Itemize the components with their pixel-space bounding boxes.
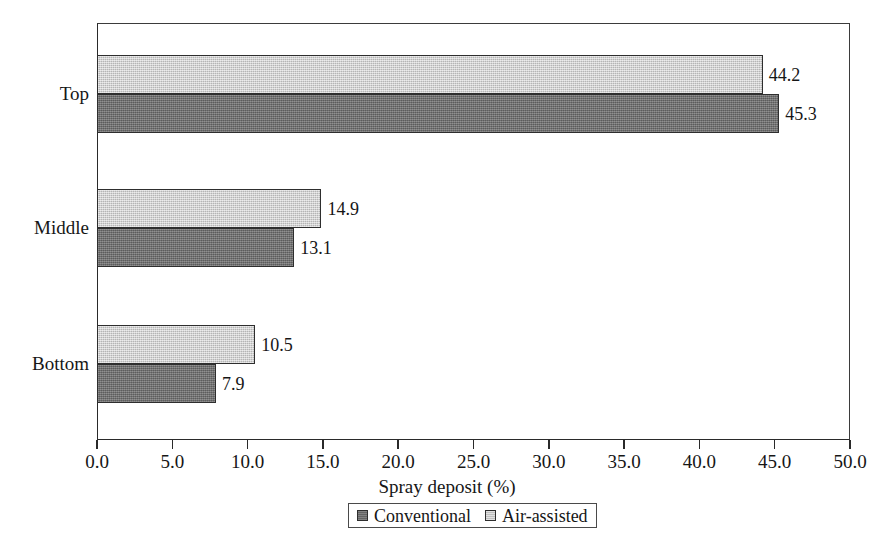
x-tick-mark-5.0 [172,440,174,449]
data-label-top-air-assisted: 44.2 [769,66,801,84]
x-tick-label-30.0: 30.0 [532,452,565,471]
x-tick-mark-35.0 [623,440,625,449]
x-tick-mark-25.0 [473,440,475,449]
data-label-bottom-air-assisted: 10.5 [261,336,293,354]
bar-bottom-conventional [97,364,216,403]
bar-middle-conventional [97,228,294,267]
bar-middle-air-assisted [97,189,321,228]
x-tick-label-20.0: 20.0 [382,452,415,471]
category-label-middle: Middle [0,218,89,237]
legend-entry-air-assisted: Air-assisted [485,507,588,525]
legend-label: Conventional [374,507,471,525]
data-label-bottom-conventional: 7.9 [222,375,245,393]
x-tick-mark-40.0 [699,440,701,449]
x-tick-mark-30.0 [548,440,550,449]
x-tick-label-45.0: 45.0 [758,452,791,471]
data-label-middle-conventional: 13.1 [300,239,332,257]
x-axis-title: Spray deposit (%) [0,477,894,496]
chart-legend: ConventionalAir-assisted [348,503,597,528]
x-tick-label-15.0: 15.0 [306,452,339,471]
x-tick-label-40.0: 40.0 [683,452,716,471]
bars-layer [97,23,850,440]
x-tick-mark-50.0 [849,440,851,449]
x-tick-label-5.0: 5.0 [160,452,184,471]
dark-gray-swatch-icon [357,510,368,521]
x-tick-label-0.0: 0.0 [85,452,109,471]
x-tick-mark-15.0 [322,440,324,449]
spray-deposit-bar-chart: TopMiddleBottom 44.245.314.913.110.57.9 … [0,0,894,552]
category-label-top: Top [0,84,89,103]
legend-label: Air-assisted [502,507,588,525]
x-tick-mark-0.0 [96,440,98,449]
legend-entry-conventional: Conventional [357,507,471,525]
x-tick-label-50.0: 50.0 [833,452,866,471]
x-tick-mark-20.0 [397,440,399,449]
x-tick-label-25.0: 25.0 [457,452,490,471]
x-tick-mark-10.0 [247,440,249,449]
data-label-top-conventional: 45.3 [785,105,817,123]
bar-top-air-assisted [97,55,763,94]
bar-top-conventional [97,94,779,133]
bar-bottom-air-assisted [97,325,255,364]
category-label-bottom: Bottom [0,354,89,373]
data-label-middle-air-assisted: 14.9 [327,200,359,218]
light-gray-swatch-icon [485,510,496,521]
x-tick-label-10.0: 10.0 [231,452,264,471]
x-tick-label-35.0: 35.0 [607,452,640,471]
x-tick-mark-45.0 [774,440,776,449]
